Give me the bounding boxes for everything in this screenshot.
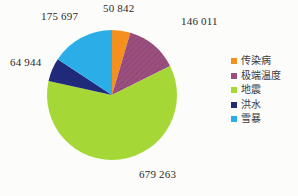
legend-item-infectious-disease[interactable]: 传染病 bbox=[231, 54, 297, 69]
legend-item-earthquake[interactable]: 地震 bbox=[231, 83, 297, 98]
legend-item-label: 洪水 bbox=[241, 100, 261, 110]
data-label-infectious-disease: 50 842 bbox=[103, 3, 134, 14]
data-label-snowstorm: 175 697 bbox=[41, 11, 78, 22]
pie-slices bbox=[47, 30, 177, 160]
legend-item-label: 极端温度 bbox=[241, 71, 281, 81]
legend-swatch-icon bbox=[231, 116, 237, 122]
legend-swatch-icon bbox=[231, 102, 237, 108]
pie-plot-area: 50 842 146 011 679 263 64 944 175 697 bbox=[0, 0, 222, 196]
pie-chart: 50 842 146 011 679 263 64 944 175 697 传染… bbox=[0, 0, 298, 196]
legend-item-flood[interactable]: 洪水 bbox=[231, 98, 297, 113]
legend-swatch-icon bbox=[231, 87, 237, 93]
data-label-extreme-temperature: 146 011 bbox=[181, 16, 218, 27]
legend-item-snowstorm[interactable]: 雪暴 bbox=[231, 112, 297, 127]
chart-legend: 传染病 极端温度 地震 洪水 雪暴 bbox=[231, 54, 297, 127]
legend-swatch-icon bbox=[231, 73, 237, 79]
data-label-flood: 64 944 bbox=[10, 57, 41, 68]
data-label-earthquake: 679 263 bbox=[139, 169, 176, 180]
legend-item-label: 雪暴 bbox=[241, 114, 261, 124]
legend-swatch-icon bbox=[231, 58, 237, 64]
pie-svg bbox=[0, 0, 222, 196]
legend-item-label: 传染病 bbox=[241, 56, 271, 66]
legend-item-extreme-temperature[interactable]: 极端温度 bbox=[231, 69, 297, 84]
legend-item-label: 地震 bbox=[241, 85, 261, 95]
